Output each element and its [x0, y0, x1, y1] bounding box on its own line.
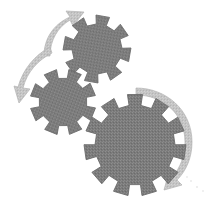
gears-diagram-canvas: Three interlocking gears with rotation a…	[0, 0, 216, 207]
gears-illustration: Three interlocking gears with rotation a…	[0, 0, 216, 207]
gear-main-hub	[96, 106, 174, 184]
